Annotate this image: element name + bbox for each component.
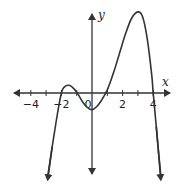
- series-line: [48, 12, 161, 177]
- x-tick-label: −4: [23, 98, 39, 111]
- function-graph: −4−2024 x y: [0, 0, 178, 185]
- y-axis-label: y: [97, 8, 105, 22]
- curve-right-arrow: [156, 127, 161, 180]
- x-tick-label: 2: [119, 98, 126, 111]
- x-axis-label: x: [162, 75, 169, 89]
- x-tick-label: −2: [53, 98, 69, 111]
- curve-left-arrow: [48, 147, 53, 181]
